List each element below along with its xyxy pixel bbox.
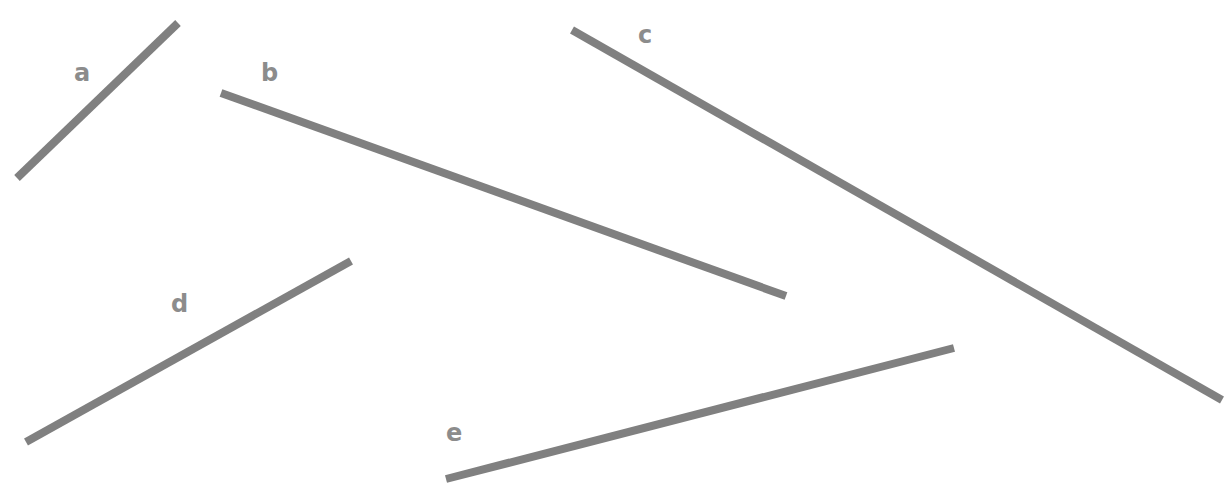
segment-a (17, 23, 178, 178)
segment-e (446, 348, 954, 479)
label-d: d (171, 290, 188, 318)
line-segments-diagram: a b c d e (0, 0, 1228, 496)
segment-d (26, 261, 351, 442)
label-b: b (261, 59, 278, 87)
label-a: a (74, 59, 90, 87)
segment-c (572, 30, 1222, 400)
label-c: c (638, 21, 652, 49)
segment-b (221, 93, 786, 296)
label-e: e (446, 419, 462, 447)
